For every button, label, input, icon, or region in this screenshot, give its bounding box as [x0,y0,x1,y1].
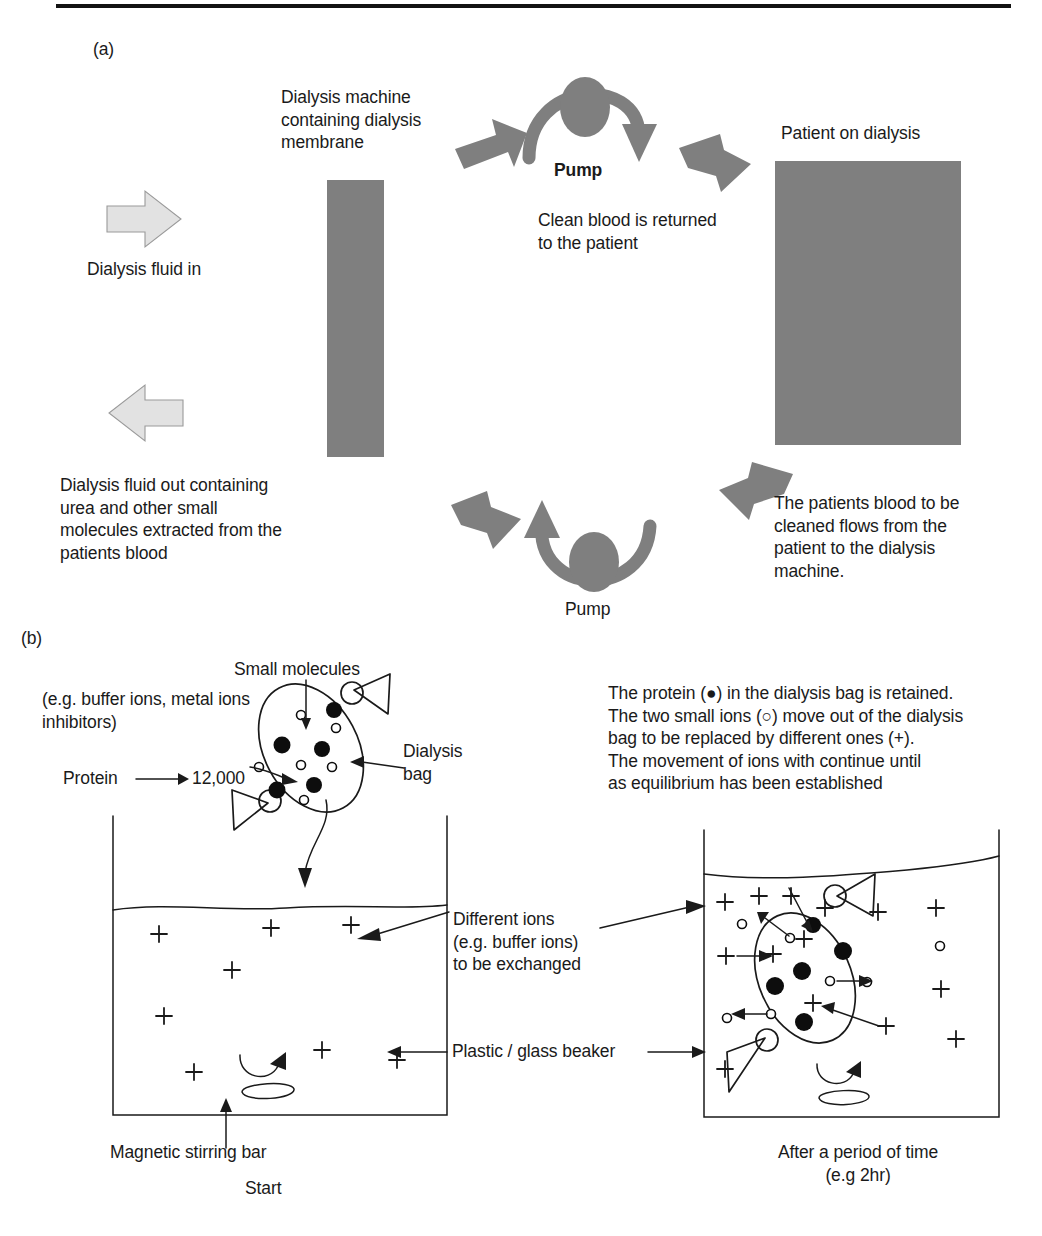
protein-leader-icon [250,763,300,791]
different-ions-label: Different ions (e.g. buffer ions) to be … [453,908,581,976]
dialysis-fluid-in-label: Dialysis fluid in [87,258,201,281]
figure-page: (a) Dialysis fluid in Dialysis fluid out… [0,0,1042,1236]
magnetic-stirring-bar-label: Magnetic stirring bar [110,1141,266,1164]
right-beaker [697,826,1007,1126]
pump-bottom-label: Pump [565,598,610,621]
pump-bottom-icon [520,500,670,610]
panel-a-label: (a) [93,38,114,61]
left-beaker [106,812,456,1124]
top-rule [56,4,1011,8]
patients-blood-text: The patients blood to be cleaned flows f… [774,492,959,582]
right-beaker-caption: After a period of time (e.g 2hr) [758,1141,958,1186]
dialysis-fluid-in-arrow-icon [105,188,185,250]
dialysis-fluid-out-label: Dialysis fluid out containing urea and o… [60,474,282,564]
small-molecules-leader-icon [292,680,320,730]
left-beaker-caption: Start [245,1177,281,1200]
dialysis-membrane-block [327,180,384,457]
flow-arrow-to-patient-icon [676,128,754,198]
panel-b-label: (b) [21,627,42,650]
dialysis-explanation-text: The protein (●) in the dialysis bag is r… [608,682,963,795]
different-ions-left-leader-icon [355,908,451,946]
different-ions-right-leader-icon [598,900,708,936]
pump-top-icon [517,58,662,168]
dialysis-machine-label: Dialysis machine containing dialysis mem… [281,86,421,154]
patient-block [775,161,961,445]
dialysis-fluid-out-arrow-icon [105,382,185,444]
flow-arrow-to-membrane-icon [449,487,529,557]
protein-label: Protein [63,767,118,790]
plastic-glass-beaker-label: Plastic / glass beaker [452,1040,615,1063]
patient-on-dialysis-label: Patient on dialysis [781,122,920,145]
dialysis-bag-leader-icon [348,756,406,772]
protein-arrow-icon [134,770,190,788]
beaker-left-leader-icon [385,1042,449,1062]
clean-blood-text: Clean blood is returned to the patient [538,209,717,254]
pump-top-label: Pump [554,159,602,182]
